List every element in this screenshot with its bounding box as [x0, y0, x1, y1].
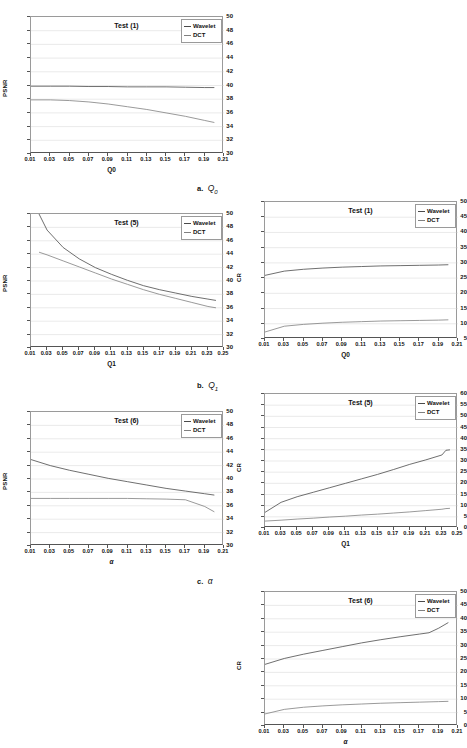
legend-item-dct: DCT	[184, 426, 218, 435]
x-tick-mark	[207, 347, 208, 350]
y-tick-label: 34	[207, 317, 233, 323]
x-tick-mark	[69, 545, 70, 548]
y-tick-label: 32	[207, 331, 233, 337]
y-tick-mark	[27, 491, 30, 492]
y-axis-label: PSNR	[2, 275, 8, 292]
x-tick-mark	[175, 347, 176, 350]
chart-cell-c-left: 30323436384042444648500.010.030.050.070.…	[0, 403, 233, 583]
y-tick-label: 25	[441, 655, 467, 661]
chart-title: Test (5)	[114, 219, 138, 226]
legend-label: Wavelet	[193, 22, 215, 31]
x-tick-label: 0.23	[201, 350, 212, 356]
caption-c: c. α	[197, 576, 213, 586]
legend-label: DCT	[193, 228, 205, 237]
x-tick-label: 0.13	[121, 350, 132, 356]
y-tick-label: 40	[207, 277, 233, 283]
x-tick-mark	[361, 725, 362, 728]
x-tick-mark	[30, 545, 31, 548]
x-tick-mark	[146, 545, 147, 548]
y-tick-mark	[27, 112, 30, 113]
series-line-wavelet	[31, 460, 214, 496]
x-tick-mark	[127, 545, 128, 548]
x-tick-label: 0.15	[160, 548, 171, 554]
caption-c-symbol: α	[205, 576, 212, 586]
x-tick-mark	[165, 153, 166, 156]
x-tick-label: 0.11	[121, 156, 132, 162]
x-tick-label: 0.21	[185, 350, 196, 356]
x-axis-label: Q1	[0, 360, 223, 367]
x-tick-mark	[88, 545, 89, 548]
x-tick-label: 0.03	[44, 548, 55, 554]
y-tick-mark	[261, 712, 264, 713]
y-tick-mark	[27, 320, 30, 321]
y-tick-mark	[261, 671, 264, 672]
x-tick-mark	[191, 347, 192, 350]
y-tick-label: 32	[207, 529, 233, 535]
y-tick-label: 44	[207, 448, 233, 454]
x-tick-mark	[88, 153, 89, 156]
x-tick-mark	[457, 725, 458, 728]
x-tick-label: 0.15	[137, 350, 148, 356]
x-tick-mark	[110, 347, 111, 350]
legend-swatch-icon	[418, 601, 425, 602]
y-tick-label: 5	[441, 709, 467, 715]
y-tick-mark	[261, 201, 264, 202]
caption-b-label: b.	[197, 381, 204, 390]
x-tick-label: 0.19	[169, 350, 180, 356]
x-tick-mark	[223, 545, 224, 548]
x-tick-label: 0.25	[218, 350, 229, 356]
x-tick-mark	[204, 545, 205, 548]
x-tick-mark	[94, 347, 95, 350]
x-tick-mark	[399, 725, 400, 728]
legend-label: DCT	[427, 606, 439, 615]
legend-item-dct: DCT	[184, 31, 218, 40]
y-tick-label: 36	[207, 304, 233, 310]
x-tick-mark	[46, 347, 47, 350]
caption-c-label: c.	[197, 577, 203, 586]
legend: WaveletDCT	[415, 594, 456, 618]
legend-swatch-icon	[418, 610, 425, 611]
x-tick-label: 0.11	[355, 728, 366, 734]
legend-swatch-icon	[184, 223, 191, 224]
y-tick-mark	[27, 43, 30, 44]
chart-row-c: 30323436384042444648500.010.030.050.070.…	[0, 403, 467, 748]
x-tick-mark	[283, 725, 284, 728]
x-tick-mark	[264, 725, 265, 728]
x-tick-mark	[184, 153, 185, 156]
x-tick-label: 0.17	[179, 548, 190, 554]
legend-item-dct: DCT	[184, 228, 218, 237]
x-tick-label: 0.21	[218, 548, 229, 554]
x-tick-mark	[204, 153, 205, 156]
legend: WaveletDCT	[181, 216, 222, 240]
y-tick-mark	[27, 98, 30, 99]
x-tick-label: 0.13	[374, 728, 385, 734]
y-tick-mark	[27, 30, 30, 31]
y-tick-mark	[27, 293, 30, 294]
legend-swatch-icon	[184, 26, 191, 27]
legend: WaveletDCT	[181, 19, 222, 43]
x-tick-mark	[380, 725, 381, 728]
x-tick-mark	[30, 153, 31, 156]
legend-item-dct: DCT	[418, 606, 452, 615]
x-tick-label: 0.07	[82, 156, 93, 162]
y-tick-mark	[261, 685, 264, 686]
y-tick-mark	[27, 424, 30, 425]
x-tick-mark	[49, 153, 50, 156]
y-tick-label: 44	[207, 250, 233, 256]
y-tick-mark	[27, 532, 30, 533]
legend-swatch-icon	[184, 430, 191, 431]
x-tick-label: 0.05	[57, 350, 68, 356]
series-line-dct	[265, 701, 448, 714]
x-tick-label: 0.15	[394, 728, 405, 734]
x-tick-label: 0.05	[297, 728, 308, 734]
y-tick-mark	[27, 411, 30, 412]
y-tick-mark	[27, 505, 30, 506]
y-tick-mark	[27, 451, 30, 452]
x-tick-mark	[30, 347, 31, 350]
x-tick-label: 0.03	[278, 728, 289, 734]
y-tick-mark	[27, 438, 30, 439]
y-tick-label: 35	[441, 628, 467, 634]
x-tick-label: 0.07	[73, 350, 84, 356]
y-tick-mark	[261, 698, 264, 699]
x-tick-mark	[223, 347, 224, 350]
